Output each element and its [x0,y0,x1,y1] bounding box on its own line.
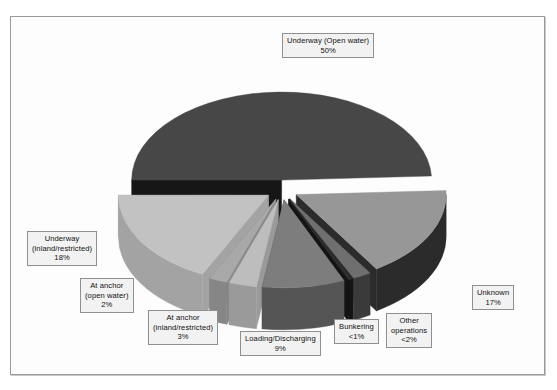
slice-label-value: <2% [391,335,427,345]
slice-label-value: 2% [85,300,129,310]
slice-label-name-2: (inland/restricted) [32,244,92,254]
pie-rim-other-operations [354,273,370,320]
slice-label-name: At anchor [85,281,129,291]
slice-label-unknown: Unknown 17% [472,285,514,310]
pie-slices-group [118,92,446,330]
slice-label-underway-inland: Underway (inland/restricted) 18% [27,231,97,266]
slice-label-name: At anchor [153,313,213,323]
pie-slice-underway-open-water [132,92,432,180]
slice-label-name-2: (open water) [85,291,129,301]
slice-label-at-anchor-inland: At anchor (inland/restricted) 3% [148,310,218,345]
slice-label-value: 17% [477,298,509,308]
slice-label-name-2: (inland/restricted) [153,323,213,333]
slice-label-name: Loading/Discharging [245,334,316,344]
chart-page: Underway (Open water) 50% Unknown 17% Ot… [0,0,557,390]
slice-label-loading-discharging: Loading/Discharging 9% [240,331,321,356]
pie-rim-bunkering [348,279,352,322]
pie-rim-loading-discharging [262,281,344,330]
slice-label-at-anchor-open-water: At anchor (open water) 2% [80,278,134,313]
slice-label-name: Unknown [477,288,509,298]
slice-label-value: 18% [32,253,92,263]
slice-label-bunkering: Bunkering <1% [334,319,379,344]
pie-rim-at-anchor-inland-restricted [229,283,256,329]
slice-label-name-2: operations [391,326,427,336]
slice-label-other-operations: Other operations <2% [386,313,432,348]
slice-label-value: 9% [245,344,316,354]
slice-label-value: 50% [287,46,369,56]
slice-label-name: Underway [32,234,92,244]
slice-label-underway-open-water: Underway (Open water) 50% [282,33,374,58]
slice-label-name: Bunkering [339,322,374,332]
slice-label-name: Underway (Open water) [287,36,369,46]
slice-label-value: <1% [339,332,374,342]
slice-label-name: Other [391,316,427,326]
slice-label-value: 3% [153,332,213,342]
